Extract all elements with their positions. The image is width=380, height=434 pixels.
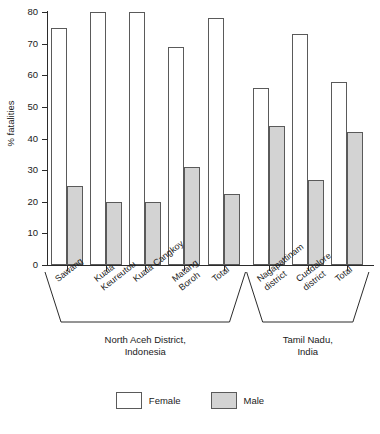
y-tick-label: 80 [27, 5, 38, 18]
bar-female [331, 82, 347, 265]
chart-legend: Female Male [0, 392, 380, 409]
legend-item-male: Male [211, 392, 265, 409]
plot-area [47, 12, 374, 265]
group-caption: Tamil Nadu, India [227, 334, 380, 358]
y-tick-label: 30 [27, 163, 38, 176]
bar-female [208, 18, 224, 265]
legend-label-male: Male [244, 395, 265, 406]
bar-male [347, 132, 363, 265]
legend-item-female: Female [116, 392, 181, 409]
bar-male [184, 167, 200, 265]
y-tick-label: 40 [27, 132, 38, 145]
bar-female [253, 88, 269, 265]
y-tick-label: 70 [27, 37, 38, 50]
legend-label-female: Female [149, 395, 181, 406]
y-tick-label: 20 [27, 195, 38, 208]
bar-female [168, 47, 184, 265]
bar-male [67, 186, 83, 265]
y-tick-label: 10 [27, 226, 38, 239]
bar-male [308, 180, 324, 265]
y-tick-label: 60 [27, 68, 38, 81]
y-tick-label: 50 [27, 100, 38, 113]
bar-female [51, 28, 67, 265]
y-tick-label: 0 [33, 258, 38, 271]
bar-female [292, 34, 308, 265]
y-axis-title: % fatalities [5, 101, 16, 147]
bar-male [269, 126, 285, 265]
legend-swatch-male-icon [211, 392, 237, 409]
x-category-label: Total [210, 264, 231, 284]
x-category-label-line: Total [210, 264, 231, 284]
bar-chart: % fatalities 01020304050607080 SawangKua… [0, 0, 380, 434]
bar-female [90, 12, 106, 265]
bar-female [129, 12, 145, 265]
legend-swatch-female-icon [116, 392, 142, 409]
y-tick-mark [42, 265, 47, 266]
bar-male [224, 194, 240, 265]
